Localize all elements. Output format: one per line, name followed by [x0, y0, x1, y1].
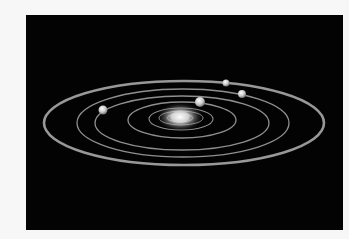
solar-system-illustration: [26, 15, 343, 230]
planet: [99, 106, 108, 115]
planet: [195, 97, 205, 107]
sun: [156, 102, 204, 132]
solar-system-image: [26, 15, 343, 230]
planet: [223, 80, 230, 87]
planet: [238, 90, 246, 98]
